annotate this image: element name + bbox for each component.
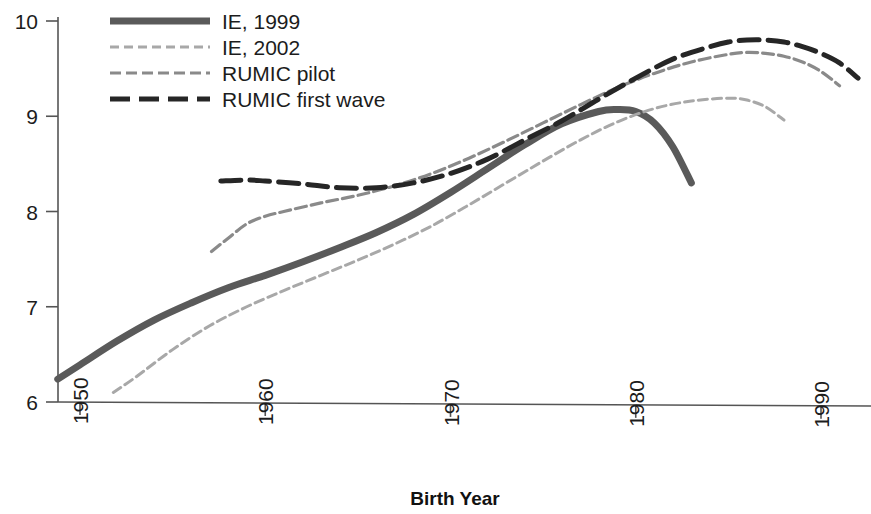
x-tick-label: 1960 [254, 378, 277, 425]
x-tick-label: 1990 [810, 381, 833, 428]
chart-legend: IE, 1999IE, 2002RUMIC pilotRUMIC first w… [110, 10, 385, 111]
series-lines [58, 40, 858, 393]
y-tick-label: 8 [26, 201, 38, 224]
series-line-ie-1999 [58, 110, 692, 380]
y-tick-label: 6 [26, 391, 38, 414]
birth-year-line-chart: 19501960197019801990 678910 IE, 1999IE, … [0, 0, 871, 514]
y-tick-label: 10 [15, 10, 38, 33]
legend-label-rumic-first-wave: RUMIC first wave [222, 88, 385, 111]
x-tick-label: 1970 [440, 379, 463, 426]
legend-label-rumic-pilot: RUMIC pilot [222, 62, 335, 85]
legend-label-ie-2002: IE, 2002 [222, 36, 300, 59]
y-tick-label: 9 [26, 105, 38, 128]
legend-label-ie-1999: IE, 1999 [222, 10, 300, 33]
series-line-ie-2002 [113, 98, 784, 392]
y-tick-labels: 678910 [15, 10, 38, 414]
x-tick-label: 1950 [69, 377, 92, 424]
axes [46, 17, 871, 419]
x-axis-line [58, 402, 871, 406]
x-axis-title: Birth Year [410, 488, 500, 509]
y-tick-label: 7 [26, 296, 38, 319]
chart-figure: 19501960197019801990 678910 IE, 1999IE, … [0, 0, 871, 514]
x-tick-label: 1980 [625, 380, 648, 427]
